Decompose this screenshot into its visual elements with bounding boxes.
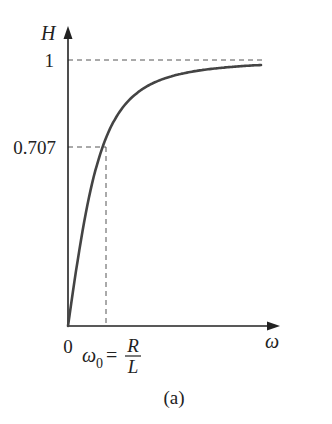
omega0-denominator: L xyxy=(127,356,139,377)
figure-caption: (a) xyxy=(163,387,184,409)
response-curve xyxy=(68,65,261,326)
reference-lines xyxy=(68,60,262,326)
y-tick-1: 1 xyxy=(45,50,55,71)
axes xyxy=(64,26,281,331)
omega0-label: ω 0 = R L xyxy=(82,335,141,377)
frequency-response-chart: H 1 0.707 0 ω ω 0 = R L (a) xyxy=(0,0,332,424)
omega0-numerator: R xyxy=(126,335,139,356)
y-axis-arrow-icon xyxy=(64,26,73,39)
omega0-symbol: ω xyxy=(82,344,96,366)
x-origin-label: 0 xyxy=(63,336,73,357)
y-axis-label: H xyxy=(40,22,57,44)
omega0-subscript: 0 xyxy=(96,356,103,371)
x-axis-label: ω xyxy=(265,330,279,352)
omega0-equals: = xyxy=(106,344,117,366)
y-tick-0707: 0.707 xyxy=(13,137,56,158)
